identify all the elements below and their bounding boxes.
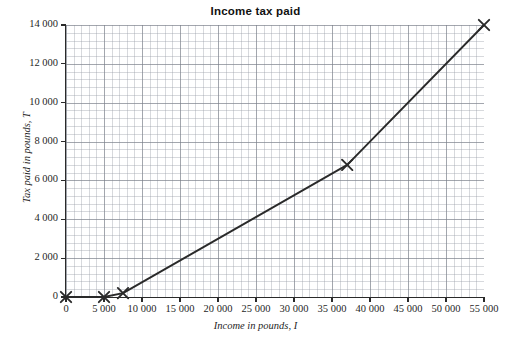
y-axis-tick — [61, 24, 66, 25]
x-axis-line — [65, 297, 485, 298]
x-axis-tick — [293, 297, 294, 302]
y-axis-title: Tax paid in pounds, T — [21, 68, 32, 248]
x-axis-tick-label: 25 000 — [242, 303, 271, 314]
x-axis-tick-label: 10 000 — [128, 303, 157, 314]
x-axis-tick-label: 15 000 — [166, 303, 195, 314]
y-axis-tick-label: 8 000 — [34, 135, 58, 146]
x-axis-tick — [331, 297, 332, 302]
x-axis-tick — [103, 297, 104, 302]
data-series-svg — [66, 25, 484, 297]
data-point-marker — [479, 20, 489, 30]
y-axis-tick-label: 10 000 — [29, 96, 58, 107]
x-axis-tick — [445, 297, 446, 302]
x-axis-tick-label: 55 000 — [470, 303, 499, 314]
x-axis-tick-label: 5 000 — [92, 303, 116, 314]
x-axis-tick — [179, 297, 180, 302]
x-axis-tick-label: 35 000 — [318, 303, 347, 314]
series-line — [66, 25, 484, 297]
x-axis-tick-label: 0 — [63, 303, 68, 314]
y-axis-tick-label: 14 000 — [29, 18, 58, 29]
chart-figure: Income tax paid 02 0004 0006 0008 00010 … — [0, 0, 511, 345]
y-axis-tick-label: 2 000 — [34, 251, 58, 262]
series-markers — [61, 20, 489, 302]
y-axis-tick — [61, 219, 66, 220]
y-axis-tick — [61, 180, 66, 181]
y-axis-tick — [61, 102, 66, 103]
x-axis-tick-label: 40 000 — [356, 303, 385, 314]
chart-title: Income tax paid — [0, 5, 511, 17]
x-axis-tick-label: 50 000 — [432, 303, 461, 314]
x-axis-tick — [369, 297, 370, 302]
x-axis-tick — [65, 297, 66, 302]
x-axis-tick-label: 20 000 — [204, 303, 233, 314]
x-axis-tick — [141, 297, 142, 302]
x-axis-tick — [255, 297, 256, 302]
plot-area — [66, 25, 484, 297]
y-axis-tick — [61, 63, 66, 64]
x-axis-tick — [217, 297, 218, 302]
x-axis-tick — [483, 297, 484, 302]
y-axis-tick-label: 12 000 — [29, 57, 58, 68]
y-axis-tick-label: 6 000 — [34, 173, 58, 184]
y-axis-tick-label: 0 — [53, 290, 58, 301]
data-point-marker — [342, 160, 352, 170]
y-axis-tick-label: 4 000 — [34, 212, 58, 223]
x-axis-tick — [407, 297, 408, 302]
x-axis-title: Income in pounds, I — [0, 320, 511, 331]
x-axis-tick-label: 30 000 — [280, 303, 309, 314]
x-axis-tick-label: 45 000 — [394, 303, 423, 314]
y-axis-tick — [61, 258, 66, 259]
y-axis-tick — [61, 141, 66, 142]
